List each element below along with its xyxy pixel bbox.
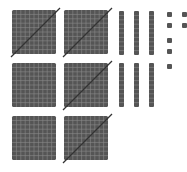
one-unit (182, 23, 187, 28)
tens-rods (119, 11, 154, 107)
one-unit (167, 38, 172, 43)
ten-rod (119, 63, 124, 107)
one-unit (182, 12, 187, 17)
ten-rod (149, 63, 154, 107)
one-unit (167, 49, 172, 54)
one-unit (167, 64, 172, 69)
ten-rod (134, 63, 139, 107)
hundred-block (12, 63, 56, 107)
ten-rod (119, 11, 124, 55)
one-unit (167, 23, 172, 28)
hundreds-blocks (11, 8, 112, 163)
one-unit (167, 12, 172, 17)
ones-units (167, 12, 187, 69)
hundred-block (63, 114, 112, 163)
hundred-block (63, 8, 112, 57)
ten-rod (149, 11, 154, 55)
base-ten-blocks-diagram (0, 0, 187, 172)
hundred-block (12, 116, 56, 160)
hundred-block (11, 8, 60, 57)
hundred-block (63, 61, 112, 110)
ten-rod (134, 11, 139, 55)
